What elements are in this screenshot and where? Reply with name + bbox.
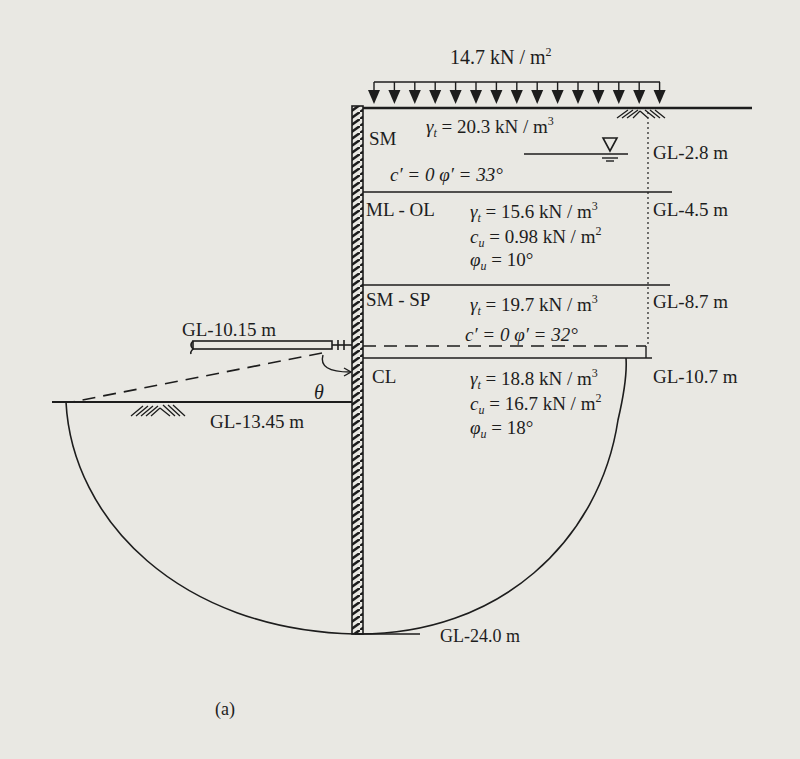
failure-line-dashed: [72, 353, 322, 402]
surcharge-label: 14.7 kN / m2: [450, 46, 552, 67]
layer-name-cl: CL: [372, 367, 396, 386]
strut: [191, 340, 352, 354]
layer-sm-sp-strength: c′ = 0 φ′ = 32°: [465, 325, 578, 344]
figure-caption: (a): [215, 700, 235, 718]
gl-label-8.7: GL-8.7 m: [653, 292, 728, 311]
water-table-icon: [524, 138, 628, 161]
layer-ml-ol-friction: φu = 10°: [470, 250, 533, 272]
excavation-diagram: 14.7 kN / m2 GL-2.8 m GL-4.5 m GL-8.7 m …: [0, 0, 800, 759]
layer-name-sm: SM: [369, 129, 396, 148]
gl-label-10.7: GL-10.7 m: [653, 367, 737, 386]
excavation-hatch-icon: [131, 405, 185, 416]
layer-ml-ol-unit-weight: γt = 15.6 kN / m3: [470, 200, 598, 224]
layer-name-sm-sp: SM - SP: [366, 290, 430, 309]
theta-angle-icon: [322, 355, 351, 376]
layer-sm-strength: c′ = 0 φ′ = 33°: [390, 165, 503, 184]
ground-hatch-icon: [617, 110, 665, 118]
layer-cl-unit-weight: γt = 18.8 kN / m3: [470, 367, 598, 391]
layer-cl-friction: φu = 18°: [470, 418, 533, 440]
gl-label-4.5: GL-4.5 m: [653, 200, 728, 219]
layer-ml-ol-cohesion: cu = 0.98 kN / m2: [470, 225, 601, 249]
gl-label-water-table: GL-2.8 m: [653, 143, 728, 162]
wall-toe-label: GL-24.0 m: [440, 627, 520, 645]
layer-name-ml-ol: ML - OL: [366, 200, 435, 219]
layer-sm-unit-weight: γt = 20.3 kN / m3: [426, 115, 554, 139]
retaining-wall: [352, 106, 363, 634]
strut-level-label: GL-10.15 m: [182, 320, 276, 339]
surcharge-load: [368, 82, 666, 104]
excavation-level-label: GL-13.45 m: [210, 412, 304, 431]
theta-label: θ: [314, 382, 324, 402]
layer-sm-sp-unit-weight: γt = 19.7 kN / m3: [470, 293, 598, 317]
layer-cl-cohesion: cu = 16.7 kN / m2: [470, 392, 601, 416]
